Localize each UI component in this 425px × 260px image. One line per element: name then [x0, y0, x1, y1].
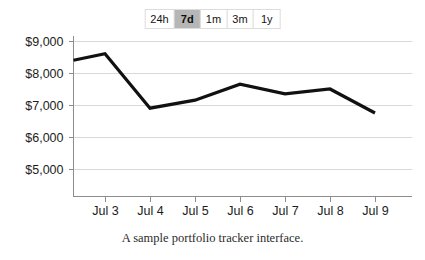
x-tick-marks — [106, 197, 376, 203]
x-axis-label-3: Jul 6 — [227, 204, 253, 218]
x-axis-labels: Jul 3Jul 4Jul 5Jul 6Jul 7Jul 8Jul 9 — [92, 204, 388, 218]
chart-canvas: $5,000$6,000$7,000$8,000$9,000 Jul 3Jul … — [0, 0, 425, 260]
x-axis-label-1: Jul 4 — [137, 204, 163, 218]
x-axis-label-2: Jul 5 — [182, 204, 208, 218]
x-axis-label-5: Jul 8 — [317, 204, 343, 218]
x-axis-label-0: Jul 3 — [92, 204, 118, 218]
y-axis-label-7000: $7,000 — [25, 99, 63, 113]
y-axis-labels: $5,000$6,000$7,000$8,000$9,000 — [25, 35, 63, 177]
y-axis-label-9000: $9,000 — [25, 35, 63, 49]
y-axis-label-6000: $6,000 — [25, 131, 63, 145]
y-axis-label-5000: $5,000 — [25, 163, 63, 177]
y-axis-label-8000: $8,000 — [25, 67, 63, 81]
x-axis-label-6: Jul 9 — [362, 204, 388, 218]
y-tick-marks — [69, 42, 74, 170]
portfolio-chart: $5,000$6,000$7,000$8,000$9,000 Jul 3Jul … — [0, 0, 425, 260]
x-axis-label-4: Jul 7 — [272, 204, 298, 218]
portfolio-value-line — [74, 54, 376, 113]
figure-caption: A sample portfolio tracker interface. — [0, 231, 425, 246]
